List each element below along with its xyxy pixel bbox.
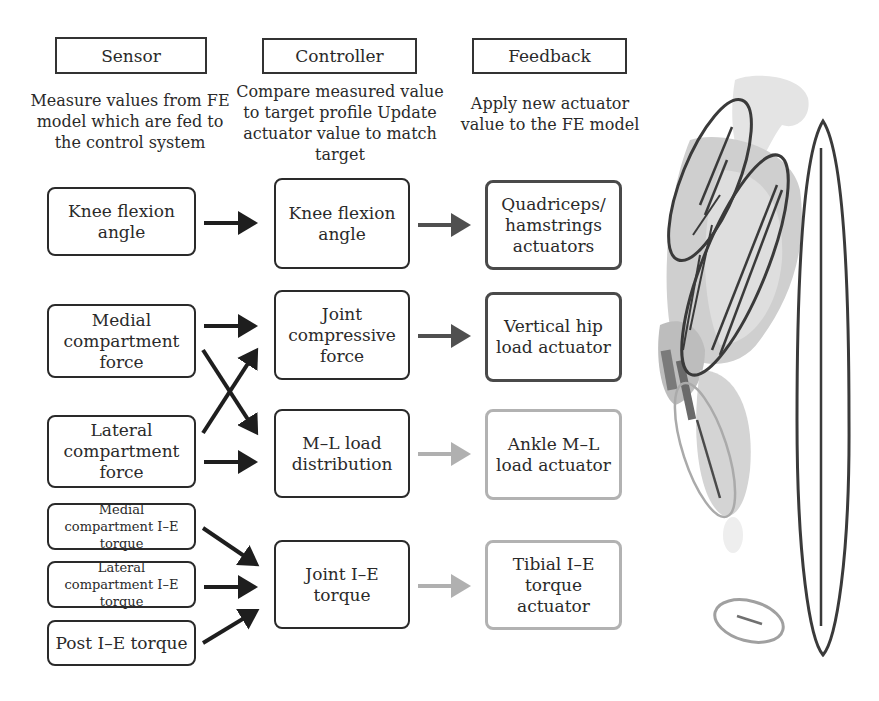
fe-leg-model-illustration [0, 0, 879, 701]
foot-shape [723, 517, 743, 553]
vertical-hip-load-ellipse [797, 121, 849, 655]
